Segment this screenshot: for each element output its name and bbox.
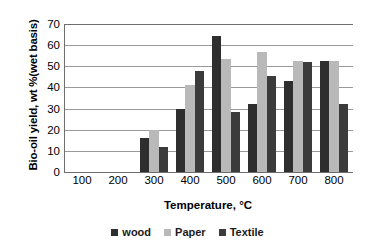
bar-wood-500 bbox=[212, 36, 221, 172]
x-axis-ticks: 100200300400500600700800 bbox=[64, 174, 352, 192]
legend-item-textile[interactable]: Textile bbox=[219, 226, 264, 238]
bar-paper-600 bbox=[257, 52, 266, 172]
legend-swatch-icon bbox=[164, 229, 171, 236]
x-tick-label: 100 bbox=[62, 174, 102, 186]
legend-label: Textile bbox=[230, 226, 264, 238]
legend-item-wood[interactable]: wood bbox=[111, 226, 151, 238]
bar-paper-500 bbox=[221, 59, 230, 172]
x-tick-label: 200 bbox=[98, 174, 138, 186]
bar-textile-700 bbox=[303, 62, 312, 172]
x-tick-label: 400 bbox=[170, 174, 210, 186]
y-tick-label: 10 bbox=[30, 145, 60, 157]
legend-label: wood bbox=[122, 226, 151, 238]
bars-layer bbox=[64, 24, 352, 172]
bar-textile-800 bbox=[339, 104, 348, 172]
legend-swatch-icon bbox=[219, 229, 226, 236]
bar-wood-700 bbox=[284, 81, 293, 172]
bar-paper-400 bbox=[185, 85, 194, 172]
x-tick-label: 700 bbox=[278, 174, 318, 186]
bar-textile-300 bbox=[159, 147, 168, 172]
x-tick-label: 600 bbox=[242, 174, 282, 186]
bar-chart: Bio-oil yield, wt %(wet basis) 010203040… bbox=[0, 0, 375, 250]
x-axis-title: Temperature, °C bbox=[64, 199, 352, 211]
bar-wood-300 bbox=[140, 138, 149, 172]
bar-wood-600 bbox=[248, 104, 257, 172]
legend-swatch-icon bbox=[111, 229, 118, 236]
y-axis-ticks: 010203040506070 bbox=[30, 0, 60, 250]
y-tick-label: 50 bbox=[30, 60, 60, 72]
bar-paper-800 bbox=[329, 61, 338, 172]
y-tick-label: 0 bbox=[30, 166, 60, 178]
x-tick-label: 500 bbox=[206, 174, 246, 186]
bar-textile-400 bbox=[195, 71, 204, 172]
legend-item-paper[interactable]: Paper bbox=[164, 226, 206, 238]
legend-label: Paper bbox=[175, 226, 206, 238]
bar-paper-300 bbox=[149, 130, 158, 172]
y-tick-label: 20 bbox=[30, 124, 60, 136]
x-tick-label: 800 bbox=[314, 174, 354, 186]
bar-textile-600 bbox=[267, 76, 276, 172]
y-tick-label: 40 bbox=[30, 81, 60, 93]
y-tick-label: 60 bbox=[30, 39, 60, 51]
y-tick-label: 30 bbox=[30, 103, 60, 115]
y-tick-label: 70 bbox=[30, 18, 60, 30]
x-tick-label: 300 bbox=[134, 174, 174, 186]
bar-wood-400 bbox=[176, 109, 185, 172]
bar-paper-700 bbox=[293, 61, 302, 172]
bar-wood-800 bbox=[320, 61, 329, 172]
bar-textile-500 bbox=[231, 112, 240, 172]
chart-legend: woodPaperTextile bbox=[0, 226, 375, 238]
